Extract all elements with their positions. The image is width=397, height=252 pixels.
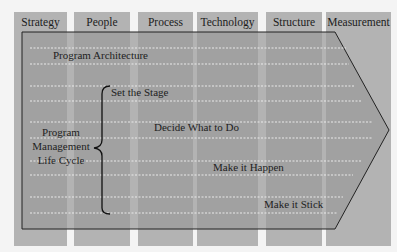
phase-make-it-happen: Make it Happen bbox=[213, 161, 284, 173]
phase-set-the-stage: Set the Stage bbox=[111, 86, 168, 98]
lifecycle-line-1: Program bbox=[26, 125, 96, 139]
program-architecture-label: Program Architecture bbox=[53, 49, 148, 61]
program-management-life-cycle-label: Program Management Life Cycle bbox=[26, 125, 96, 167]
program-management-diagram: Strategy People Process Technology Struc… bbox=[0, 0, 397, 252]
lifecycle-line-2: Management bbox=[26, 139, 96, 153]
phase-decide-what-to-do: Decide What to Do bbox=[154, 121, 239, 133]
phase-make-it-stick: Make it Stick bbox=[264, 198, 323, 210]
lifecycle-line-3: Life Cycle bbox=[26, 153, 96, 167]
